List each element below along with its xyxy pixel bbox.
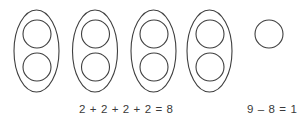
group-4-counter-bottom [196, 53, 224, 81]
group-2-counter-top [82, 20, 110, 48]
group-2-counter-bottom [82, 53, 110, 81]
group-1-counter-bottom [23, 53, 51, 81]
addition-equation: 2 + 2 + 2 + 2 = 8 [79, 104, 174, 116]
group-3-ring [131, 10, 176, 92]
group-3 [131, 10, 176, 92]
group-3-counter-bottom [140, 53, 168, 81]
group-1 [14, 10, 59, 92]
group-1-counter-top [23, 20, 51, 48]
leftover-group [255, 20, 283, 48]
worksheet-canvas: 2 + 2 + 2 + 2 = 8 9 – 8 = 1 [0, 0, 300, 125]
leftover-circle [255, 20, 283, 48]
subtraction-equation: 9 – 8 = 1 [247, 104, 297, 116]
group-3-counter-top [140, 20, 168, 48]
group-4 [187, 10, 232, 92]
group-1-ring [14, 10, 59, 92]
group-2-ring [73, 10, 118, 92]
group-4-ring [187, 10, 232, 92]
group-2 [73, 10, 118, 92]
group-4-counter-top [196, 20, 224, 48]
